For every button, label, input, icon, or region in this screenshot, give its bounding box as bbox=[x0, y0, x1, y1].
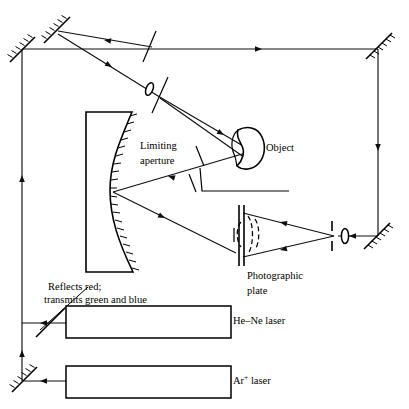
photographic-plate-label-line2: plate bbox=[247, 285, 268, 296]
hene-laser-label: He–Ne laser bbox=[233, 315, 286, 326]
lens-object-beam[interactable] bbox=[144, 82, 155, 97]
plane-mirror-top-right[interactable] bbox=[366, 33, 395, 59]
photographic-plate-label-line1: Photographic bbox=[247, 270, 303, 281]
concave-mirror[interactable] bbox=[86, 112, 139, 272]
object-label: Object bbox=[266, 142, 294, 153]
beam-object-to-mirror bbox=[113, 152, 249, 192]
hene-laser-box[interactable] bbox=[66, 306, 231, 338]
arrowhead-diag-upper bbox=[104, 37, 112, 44]
beamsplitter-mid[interactable] bbox=[152, 77, 168, 113]
limiting-aperture-label-line1: Limiting bbox=[140, 140, 178, 151]
beam-path-reference bbox=[243, 213, 334, 257]
arrowhead-left-lower bbox=[19, 350, 25, 357]
ar-laser-box[interactable] bbox=[66, 366, 231, 398]
mirror-hatching bbox=[42, 16, 67, 39]
ar-laser-label-base: Ar bbox=[233, 375, 245, 386]
ar-laser-label: Ar+ laser bbox=[233, 373, 271, 387]
arrowhead-right bbox=[375, 144, 381, 151]
beam-ref-upper bbox=[243, 213, 334, 236]
arrowhead-mirror-to-plate bbox=[157, 212, 166, 220]
arrowhead-ar bbox=[40, 378, 47, 384]
lens-reference-beam[interactable] bbox=[341, 229, 348, 244]
optics-diagram: Object Limiting aperture Photographic pl… bbox=[0, 0, 409, 409]
limiting-aperture-label-line2: aperture bbox=[140, 155, 175, 166]
arrowhead-to-filter bbox=[349, 233, 356, 239]
interference-fringes bbox=[234, 216, 259, 254]
plane-mirror-bottom-left[interactable] bbox=[10, 365, 38, 393]
object-shape[interactable] bbox=[232, 128, 264, 170]
arrowhead-diag-to-object bbox=[217, 129, 226, 137]
beamsplitter-top[interactable] bbox=[143, 31, 156, 62]
optical-ray-diagram-canvas: Object Limiting aperture Photographic pl… bbox=[0, 0, 409, 409]
beam-path-object bbox=[113, 152, 249, 253]
dichroic-note-line1: Reflects red; bbox=[48, 281, 101, 292]
beam-diag-upper bbox=[58, 31, 152, 47]
ar-laser-label-tail: laser bbox=[248, 375, 271, 386]
arrowhead-ref-lower bbox=[279, 246, 287, 253]
mirror-hatching bbox=[370, 35, 395, 58]
dichroic-note-line2: transmits green and blue bbox=[44, 294, 147, 305]
object-support bbox=[200, 168, 289, 191]
plane-mirror-left-edge[interactable] bbox=[8, 35, 36, 63]
arrowhead-top bbox=[255, 46, 262, 52]
mirror-hatching bbox=[8, 35, 33, 58]
beam-mirror-to-plate bbox=[113, 192, 236, 253]
arrowhead-left-upper bbox=[19, 175, 25, 182]
